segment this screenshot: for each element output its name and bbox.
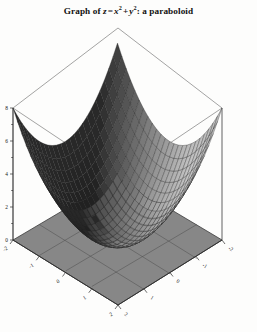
z-tick-label-8: 8 [5,105,8,111]
y-tick-label-minus2: -2 [227,245,234,253]
z-tick-label-6: 6 [5,138,8,144]
x-tick-label-minus1: -1 [28,262,35,270]
x-tick-label-0: 0 [55,278,61,285]
x-tick-label-1: 1 [82,294,88,301]
y-tick-label-0: 0 [175,278,181,285]
x-tick-label-2: 2 [108,311,114,318]
figure-container: Graph of z=x2+y2: a paraboloid [0,0,257,332]
z-tick-label-2: 2 [5,204,8,210]
z-axis: 8 6 4 2 0 [5,105,13,243]
figure-title: Graph of z=x2+y2: a paraboloid [0,4,257,16]
paraboloid-surface [13,43,222,248]
z-tick-label-0: 0 [5,237,8,243]
z-tick-label-4: 4 [5,171,8,177]
paraboloid-plot: 8 6 4 2 0 -2 -1 0 1 2 [0,18,257,332]
y-tick-label-minus1: -1 [201,262,208,270]
title-equals: = [107,6,114,16]
title-prefix: Graph of [64,6,103,16]
x-tick-label-minus2: -2 [2,245,9,253]
y-tick-label-1: 1 [149,294,155,301]
title-suffix: : a paraboloid [137,6,194,16]
y-tick-label-2: 2 [123,311,129,318]
